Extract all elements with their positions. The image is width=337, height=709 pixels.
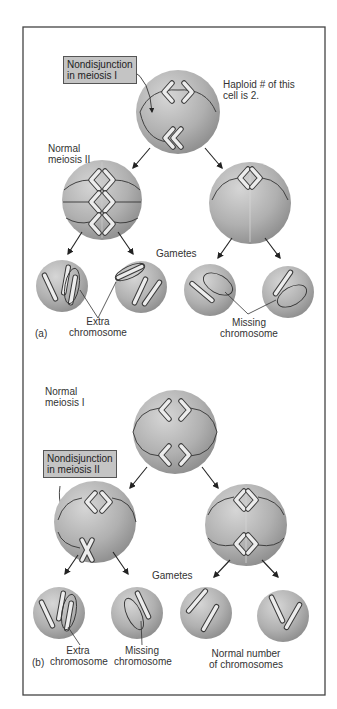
callout-line-2: in meiosis II (47, 464, 113, 475)
callout-line-1: Nondisjunction (67, 59, 133, 70)
meiosis-nondisjunction-diagram (0, 0, 337, 709)
cell-b-parent (133, 390, 217, 474)
missing-line-1: Missing (216, 317, 282, 328)
gamete-a-3 (184, 264, 236, 316)
missing-chromosome-label-b: Missing chromosome (114, 645, 170, 667)
haploid-note: Haploid # of this cell is 2. (223, 79, 295, 101)
gamete-b-2 (111, 587, 163, 639)
normal-line-2: of chromosomes (206, 659, 286, 670)
normal-number-label-b: Normal number of chromosomes (206, 648, 286, 670)
gamete-a-4 (262, 266, 314, 318)
part-a-label: (a) (35, 328, 47, 339)
missing-line-2: chromosome (114, 656, 170, 667)
gamete-b-4 (257, 590, 309, 642)
normal-line-1: Normal number (206, 648, 286, 659)
extra-line-1: Extra (50, 645, 106, 656)
cell-b-left (54, 481, 136, 563)
gamete-a-2 (113, 260, 167, 313)
gamete-a-1 (36, 260, 88, 312)
stage-line-2: meiosis II (48, 154, 90, 165)
extra-chromosome-label-a: Extra chromosome (68, 316, 128, 338)
callout-line-2: in meiosis I (67, 70, 133, 81)
extra-line-1: Extra (68, 316, 128, 327)
callout-line-1: Nondisjunction (47, 453, 113, 464)
gametes-label-b: Gametes (152, 570, 193, 581)
stage-line-2: meiosis I (45, 397, 84, 408)
stage-line-1: Normal (48, 143, 90, 154)
missing-chromosome-label-a: Missing chromosome (216, 317, 282, 339)
note-line-1: Haploid # of this (223, 79, 295, 90)
extra-line-2: chromosome (68, 327, 128, 338)
cell-a-right (209, 162, 291, 244)
cell-a-left (62, 160, 142, 240)
stage-label-normal-meiosis-i: Normal meiosis I (45, 386, 84, 408)
missing-line-1: Missing (114, 645, 170, 656)
gamete-b-3 (180, 587, 232, 639)
missing-line-2: chromosome (216, 328, 282, 339)
cell-a-parent (136, 70, 220, 154)
part-b-label: (b) (32, 657, 44, 668)
cell-b-right (205, 484, 287, 566)
extra-line-2: chromosome (50, 656, 106, 667)
gametes-label-a: Gametes (156, 248, 197, 259)
callout-nondisjunction-meiosis-ii: Nondisjunction in meiosis II (43, 450, 117, 478)
stage-line-1: Normal (45, 386, 84, 397)
stage-label-normal-meiosis-ii: Normal meiosis II (48, 143, 90, 165)
gamete-b-1 (33, 587, 85, 639)
extra-chromosome-label-b: Extra chromosome (50, 645, 106, 667)
callout-nondisjunction-meiosis-i: Nondisjunction in meiosis I (63, 56, 137, 84)
note-line-2: cell is 2. (223, 90, 295, 101)
